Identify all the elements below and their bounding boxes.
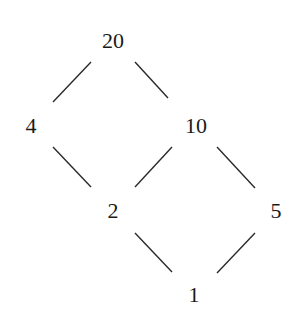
node-4: 4 (26, 113, 37, 138)
edge-10-5 (217, 147, 255, 188)
hasse-diagram: 20 4 10 2 5 1 (0, 0, 300, 322)
edge-20-10 (135, 62, 168, 98)
node-20: 20 (102, 28, 124, 53)
node-1: 1 (189, 282, 200, 307)
edge-5-1 (217, 233, 255, 273)
edge-20-4 (53, 62, 91, 102)
edge-10-2 (135, 147, 172, 187)
node-2: 2 (108, 198, 119, 223)
edge-4-2 (53, 147, 91, 187)
edge-2-1 (135, 233, 172, 272)
edges (53, 62, 255, 273)
node-5: 5 (271, 198, 282, 223)
node-10: 10 (185, 113, 207, 138)
